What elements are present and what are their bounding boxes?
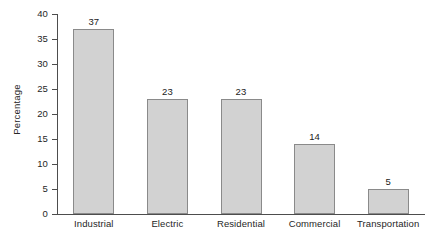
y-axis-tick-label: 25 [37,83,48,94]
y-axis-tick: 20 [52,114,57,115]
bar-value-label: 37 [88,16,99,27]
y-axis-tick-label: 30 [37,58,48,69]
y-axis-tick: 40 [52,14,57,15]
y-axis-tick-label: 10 [37,158,48,169]
y-axis-tick: 5 [52,189,57,190]
y-axis-tick: 25 [52,89,57,90]
y-axis-tick-label: 5 [43,183,48,194]
bar: 14 [294,144,335,214]
y-axis-tick: 35 [52,39,57,40]
y-axis-tick-label: 15 [37,133,48,144]
y-axis-tick-label: 35 [37,33,48,44]
y-axis-tick-label: 20 [37,108,48,119]
x-axis-category-label: Residential [204,218,278,229]
x-axis-category-label: Industrial [57,218,131,229]
y-axis-tick-label: 0 [43,208,48,219]
y-axis-tick: 0 [52,214,57,215]
x-axis-category-label: Commercial [278,218,352,229]
x-axis-category-label: Transportation [351,218,425,229]
bar: 5 [368,189,409,214]
y-axis-line [57,14,58,214]
x-axis-category-label: Electric [131,218,205,229]
bar-value-label: 14 [309,131,320,142]
bar: 23 [147,99,188,214]
bar: 23 [221,99,262,214]
bar-value-label: 23 [236,86,247,97]
y-axis-title: Percentage [11,65,22,155]
y-axis-tick: 15 [52,139,57,140]
bar-value-label: 5 [385,176,390,187]
y-axis-tick: 30 [52,64,57,65]
bar-chart: Percentage 0510152025303540 372323145 In… [0,0,431,245]
bar-value-label: 23 [162,86,173,97]
x-axis-line [57,214,425,215]
bar: 37 [73,29,114,214]
y-axis-tick-label: 40 [37,8,48,19]
y-axis-tick: 10 [52,164,57,165]
plot-area: 0510152025303540 372323145 IndustrialEle… [57,14,425,214]
